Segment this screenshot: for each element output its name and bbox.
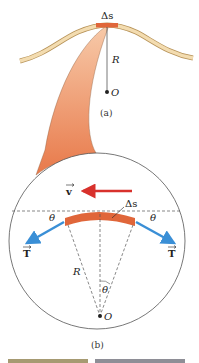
- angle-right-label: θ: [150, 212, 156, 223]
- caption-b: (b): [91, 340, 104, 350]
- tension-label-right: T: [168, 248, 176, 259]
- center-label-b: O: [104, 311, 112, 322]
- angle-center-label: θ: [102, 284, 108, 295]
- tension-label-left: T: [23, 248, 31, 259]
- magnified-circle: [9, 153, 185, 329]
- delta-s-label-b: Δs: [125, 198, 137, 209]
- center-point-b: [98, 314, 102, 318]
- wave-pulse-diagram: Δs R O (a) v Δs T T θ θ R θ O (b): [0, 0, 199, 363]
- delta-s-label-a: Δs: [101, 10, 113, 21]
- caption-a: (a): [100, 108, 112, 118]
- photo-strip-right: [95, 359, 185, 363]
- angle-left-label: θ: [49, 212, 55, 223]
- radius-label-b: R: [72, 266, 81, 277]
- velocity-label: v: [65, 186, 73, 197]
- radius-label-a: R: [111, 54, 120, 65]
- photo-strip-left: [8, 359, 88, 363]
- center-point-a: [105, 90, 109, 94]
- center-label-a: O: [111, 87, 119, 98]
- segment-delta-s-a: [96, 23, 118, 28]
